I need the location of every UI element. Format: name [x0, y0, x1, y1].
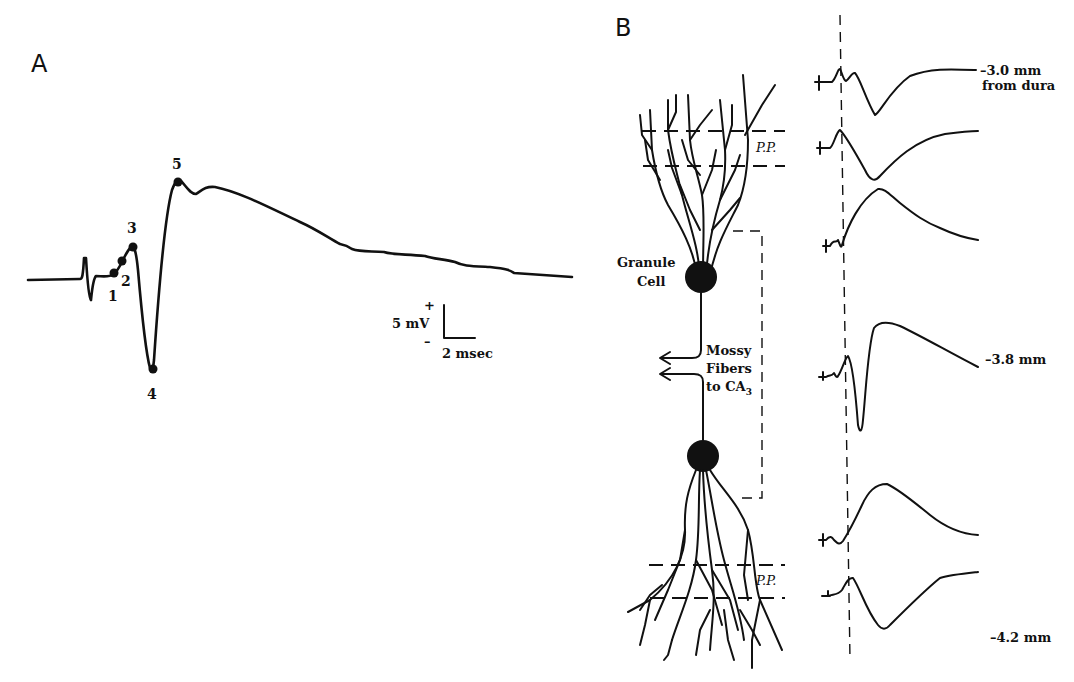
point-3-marker: [129, 243, 138, 252]
scale-minus: –: [424, 334, 431, 350]
point-label-4: 4: [147, 386, 157, 402]
laminar-traces: [815, 69, 978, 629]
pp-label-top: P.P.: [756, 140, 777, 155]
scale-plus: +: [424, 298, 435, 314]
depth-label-bottom: –4.2 mm: [990, 630, 1051, 646]
scale-voltage: 5 mV: [392, 316, 429, 332]
depth-label-top-line2: from dura: [982, 78, 1055, 94]
figure-drawing: [0, 0, 1074, 682]
depth-label-top-line1: –3.0 mm: [980, 63, 1041, 79]
granule-cell-label-line2: Cell: [637, 274, 666, 290]
scale-bar: [444, 305, 475, 338]
scale-time: 2 msec: [442, 346, 493, 362]
point-5-marker: [174, 178, 183, 187]
upper-granule-cell: [640, 75, 775, 364]
point-2-marker: [118, 257, 127, 266]
panel-a-trace: [28, 178, 572, 374]
pp-label-bottom: P.P.: [756, 573, 777, 588]
point-label-3: 3: [127, 220, 137, 236]
point-1-marker: [110, 269, 119, 278]
mossy-fibers-label-line2: Fibers: [706, 361, 752, 377]
stimulus-time-line: [840, 15, 850, 660]
point-label-1: 1: [108, 288, 118, 304]
point-label-2: 2: [121, 273, 131, 289]
point-4-marker: [149, 365, 158, 374]
granule-cell-label-line1: Granule: [617, 255, 676, 271]
mossy-fibers-label-line1: Mossy: [706, 343, 751, 359]
point-label-5: 5: [172, 156, 182, 172]
mossy-fibers-label-line3: to CA3: [706, 379, 752, 400]
depth-label-mid: –3.8 mm: [985, 352, 1046, 368]
lower-granule-cell: [628, 368, 782, 668]
